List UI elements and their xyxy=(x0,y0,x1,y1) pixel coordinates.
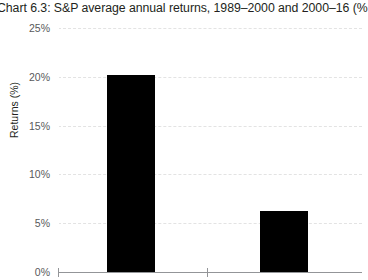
y-tick-label-20%: 20% xyxy=(0,72,50,82)
gridline-10% xyxy=(58,174,362,175)
gridline-20% xyxy=(58,77,362,78)
y-tick-label-0%: 0% xyxy=(0,267,50,277)
gridline-25% xyxy=(58,28,362,29)
y-tick-label-25%: 25% xyxy=(0,23,50,33)
x-axis-line xyxy=(58,272,362,273)
x-axis-tick-1 xyxy=(207,268,208,277)
bar-2000–16 xyxy=(260,211,308,272)
plot-area xyxy=(58,28,362,272)
y-axis-line xyxy=(58,28,59,272)
y-tick-label-15%: 15% xyxy=(0,121,50,131)
y-tick-label-5%: 5% xyxy=(0,218,50,228)
bar-1989–2000 xyxy=(107,75,155,272)
y-tick-label-10%: 10% xyxy=(0,169,50,179)
chart-title: Chart 6.3: S&P average annual returns, 1… xyxy=(0,1,368,16)
gridline-5% xyxy=(58,223,362,224)
gridline-15% xyxy=(58,126,362,127)
x-axis-tick-0 xyxy=(58,268,59,277)
